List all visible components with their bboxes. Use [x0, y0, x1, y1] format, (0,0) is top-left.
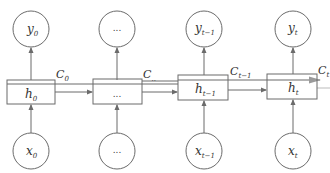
hidden-label: h	[195, 82, 203, 96]
svg-text:Ct−1: Ct−1	[230, 65, 252, 80]
output-label: ...	[113, 23, 122, 33]
cell-state-line	[7, 80, 320, 84]
svg-text:h0: h0	[25, 87, 38, 103]
timestep-0: y0 h0 C0 x0	[7, 11, 69, 169]
timestep-ellipsis: ... ... C.. ...	[93, 11, 156, 169]
diagram-canvas: y0 h0 C0 x0 ... ... C.. ... yt−1 ht−1 Ct…	[0, 0, 330, 173]
hidden-label: h	[25, 87, 33, 101]
timestep-t: yt ht Ct xt	[267, 11, 329, 169]
svg-text:ht−1: ht−1	[195, 82, 216, 98]
lstm-diagram: y0 h0 C0 x0 ... ... C.. ... yt−1 ht−1 Ct…	[0, 0, 330, 173]
hidden-label: h	[288, 81, 296, 95]
svg-text:Ct: Ct	[318, 64, 329, 79]
svg-text:C0: C0	[56, 68, 69, 83]
svg-text:ht: ht	[288, 81, 299, 97]
svg-text:C..: C..	[143, 68, 156, 83]
input-label: ...	[113, 145, 122, 155]
hidden-label: ...	[113, 89, 122, 99]
input-node-x-t-minus-1	[186, 133, 222, 169]
